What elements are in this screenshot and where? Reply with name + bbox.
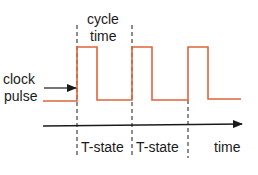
clock-pulse-label-line2: pulse — [4, 88, 37, 104]
cycle-time-label-line1: cycle — [87, 11, 119, 27]
t-state-label-2: T-state — [136, 139, 179, 155]
time-axis-arrow — [43, 124, 242, 126]
t-state-label-1: T-state — [81, 139, 124, 155]
cycle-time-label-line2: time — [90, 28, 116, 44]
time-axis-label: time — [214, 139, 240, 155]
clock-waveform — [43, 47, 241, 101]
clock-pulse-label-line1: clock — [3, 71, 35, 87]
